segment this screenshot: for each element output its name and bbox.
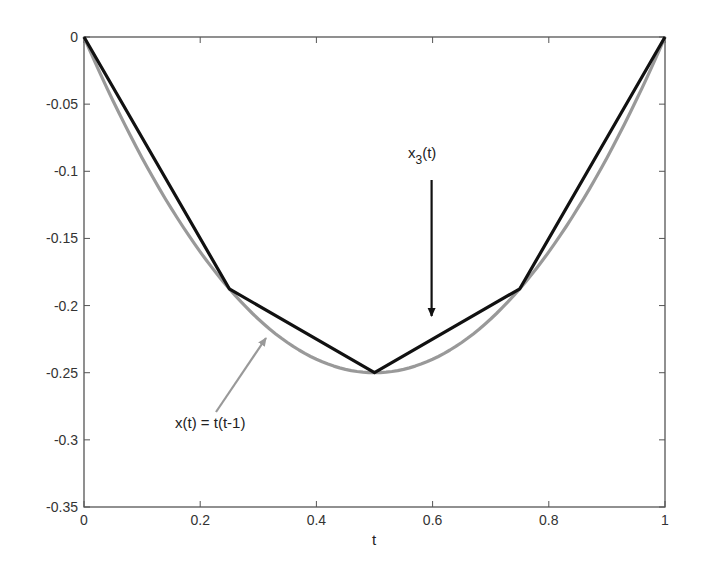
- y-tick-label: 0: [70, 29, 78, 45]
- x-tick-label: 0.4: [307, 512, 327, 528]
- x-tick-label: 0.6: [423, 512, 443, 528]
- series-x3-approximation: [84, 37, 665, 373]
- y-tick-label: -0.25: [46, 365, 78, 381]
- exact-function-label: x(t) = t(t-1): [175, 414, 245, 431]
- x-tick-label: 0.2: [190, 512, 210, 528]
- y-tick-label: -0.05: [46, 96, 78, 112]
- y-tick-label: -0.35: [46, 499, 78, 515]
- plot-frame: [84, 37, 665, 507]
- exact-function-arrow-icon: [216, 338, 266, 412]
- x-tick-label: 0.8: [539, 512, 559, 528]
- x-axis-label: t: [372, 531, 377, 548]
- axis-ticks: 00.20.40.60.810-0.05-0.1-0.15-0.2-0.25-0…: [46, 29, 669, 528]
- x3-label: x3(t): [408, 144, 436, 167]
- y-tick-label: -0.2: [54, 298, 78, 314]
- x-tick-label: 0: [80, 512, 88, 528]
- y-tick-label: -0.15: [46, 230, 78, 246]
- series-exact-curve: [84, 37, 665, 373]
- chart: 00.20.40.60.810-0.05-0.1-0.15-0.2-0.25-0…: [0, 0, 704, 571]
- y-tick-label: -0.3: [54, 432, 78, 448]
- data-series: [84, 37, 665, 373]
- y-tick-label: -0.1: [54, 163, 78, 179]
- annotations: x3(t)x(t) = t(t-1): [175, 144, 436, 431]
- plot-box: [84, 37, 665, 507]
- x-tick-label: 1: [661, 512, 669, 528]
